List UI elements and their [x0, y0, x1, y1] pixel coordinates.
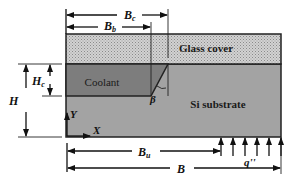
bb-label: Bb: [103, 19, 116, 34]
glass-cover-region: [66, 34, 281, 64]
si-substrate-label: Si substrate: [190, 98, 245, 110]
x-axis-label: X: [92, 124, 101, 136]
bu-label: Bu: [137, 145, 151, 160]
hc-label: Hc: [31, 74, 45, 89]
bc-label: Bc: [123, 8, 136, 23]
b-label: B: [176, 162, 185, 176]
heat-flux-arrows: [221, 138, 281, 156]
beta-label: β: [149, 93, 156, 105]
h-label: H: [8, 94, 19, 108]
heat-flux-label: q'': [244, 156, 256, 168]
glass-cover-label: Glass cover: [179, 42, 233, 54]
microchannel-cross-section-diagram: Glass cover Coolant Si substrate Bc Bb H…: [0, 0, 292, 183]
coolant-label: Coolant: [85, 76, 120, 88]
